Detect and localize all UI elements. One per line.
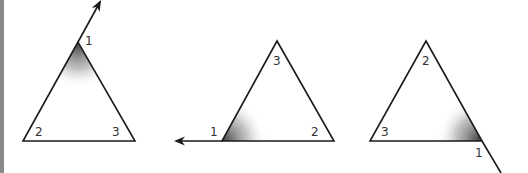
angle-label-3: 3 bbox=[273, 54, 281, 68]
angle-label-3: 3 bbox=[381, 125, 389, 139]
extension-line bbox=[482, 141, 501, 173]
exterior-angle-diagram: 1 2 3 3 1 2 2 3 1 bbox=[0, 0, 528, 173]
angle-label-2: 2 bbox=[35, 125, 43, 139]
angle-label-1: 1 bbox=[85, 34, 93, 48]
angle-label-2: 2 bbox=[311, 125, 319, 139]
angle-label-3: 3 bbox=[112, 125, 120, 139]
angle-label-2: 2 bbox=[422, 54, 430, 68]
angle-label-1: 1 bbox=[210, 125, 218, 139]
angle-label-1: 1 bbox=[475, 146, 483, 160]
